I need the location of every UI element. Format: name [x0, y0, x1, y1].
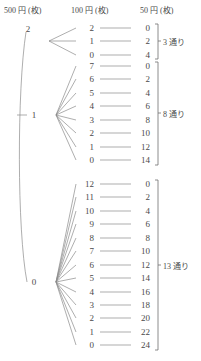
value-100yen: 12	[80, 179, 94, 189]
value-50yen: 12	[136, 260, 150, 270]
value-50yen: 24	[136, 340, 150, 350]
value-50yen: 14	[136, 273, 150, 283]
value-100yen: 11	[80, 192, 94, 202]
brace-group-1	[155, 62, 161, 165]
value-50yen: 8	[136, 115, 150, 125]
tree-diagram: 500 円 (枚) 100 円 (枚) 50 円 (枚)	[0, 0, 201, 361]
count-label-branch-0: 13 通り	[163, 260, 189, 271]
value-50yen: 10	[136, 246, 150, 256]
tree-lines	[0, 0, 201, 361]
count-label-branch-2: 3 通り	[163, 36, 185, 47]
value-50yen: 2	[136, 74, 150, 84]
value-50yen: 20	[136, 313, 150, 323]
value-100yen: 0	[80, 340, 94, 350]
value-100yen: 7	[80, 246, 94, 256]
value-100yen: 9	[80, 219, 94, 229]
value-100yen: 0	[80, 155, 94, 165]
value-100yen: 2	[80, 23, 94, 33]
value-100yen: 0	[80, 50, 94, 60]
value-100yen: 8	[80, 233, 94, 243]
value-50yen: 4	[136, 50, 150, 60]
value-50yen: 6	[136, 219, 150, 229]
value-100yen: 4	[80, 101, 94, 111]
value-50yen: 16	[136, 287, 150, 297]
value-100yen: 10	[80, 206, 94, 216]
value-50yen: 10	[136, 128, 150, 138]
value-100yen: 1	[80, 142, 94, 152]
value-100yen: 3	[80, 115, 94, 125]
fan-root-0	[56, 184, 76, 345]
value-50yen: 0	[136, 179, 150, 189]
root-node-2: 2	[22, 24, 34, 34]
value-100yen: 5	[80, 273, 94, 283]
value-50yen: 0	[136, 61, 150, 71]
root-node-1: 1	[28, 110, 40, 120]
value-50yen: 22	[136, 327, 150, 337]
value-50yen: 2	[136, 36, 150, 46]
fan-root-2	[49, 28, 76, 55]
value-100yen: 3	[80, 300, 94, 310]
value-100yen: 1	[80, 36, 94, 46]
value-100yen: 1	[80, 327, 94, 337]
value-100yen: 6	[80, 74, 94, 84]
value-50yen: 14	[136, 155, 150, 165]
brace-group-0	[155, 180, 161, 350]
value-50yen: 6	[136, 101, 150, 111]
value-50yen: 4	[136, 206, 150, 216]
value-100yen: 7	[80, 61, 94, 71]
value-100yen: 2	[80, 128, 94, 138]
root-node-0: 0	[28, 277, 40, 287]
value-100yen: 6	[80, 260, 94, 270]
count-label-branch-1: 8 通り	[163, 108, 185, 119]
row-connectors	[100, 28, 131, 345]
value-50yen: 4	[136, 88, 150, 98]
value-50yen: 12	[136, 142, 150, 152]
brace-group-2	[155, 24, 161, 59]
value-50yen: 2	[136, 192, 150, 202]
value-50yen: 8	[136, 233, 150, 243]
fan-root-1	[56, 66, 76, 160]
value-100yen: 2	[80, 313, 94, 323]
value-100yen: 4	[80, 287, 94, 297]
value-50yen: 18	[136, 300, 150, 310]
value-100yen: 5	[80, 88, 94, 98]
value-50yen: 0	[136, 23, 150, 33]
